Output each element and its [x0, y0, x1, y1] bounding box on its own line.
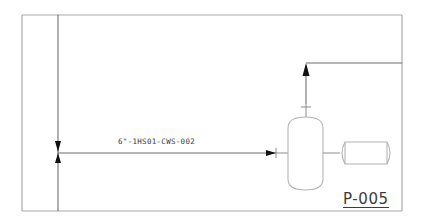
- line-spec-label: 6"-1HS01-CWS-002: [118, 137, 195, 146]
- flow-arrow-up-icon: [303, 63, 310, 76]
- horizontal-tank[interactable]: [342, 142, 390, 164]
- vertical-vessel[interactable]: [288, 117, 323, 190]
- flow-arrow-right-icon: [266, 150, 276, 156]
- bowtie-valve-icon[interactable]: [55, 141, 61, 163]
- drawing-frame: [22, 15, 402, 211]
- drawing-reference-tag[interactable]: P-005: [343, 192, 389, 208]
